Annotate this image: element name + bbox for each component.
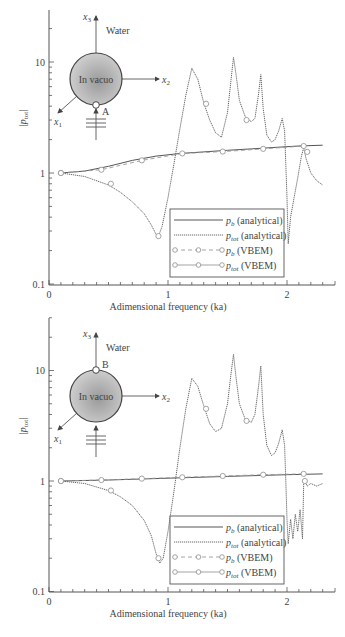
pb-vbem-marker xyxy=(180,475,185,480)
x2-label: x2 xyxy=(161,74,170,87)
pb-vbem-marker xyxy=(180,151,185,156)
y-tick-label: 10 xyxy=(35,365,45,376)
ptot-vbem-marker xyxy=(305,149,310,154)
pb-vbem-marker xyxy=(139,476,144,481)
receiver-point-label: B xyxy=(102,359,109,370)
x-tick-label: 2 xyxy=(285,596,290,607)
legend-marker xyxy=(196,555,201,560)
x-tick-label: 0 xyxy=(47,289,52,300)
ptot-vbem-marker xyxy=(302,478,307,483)
legend-marker xyxy=(196,263,201,268)
inset-diagram: x3x2x1WaterIn vacuoA xyxy=(53,11,170,140)
in-vacuo-label: In vacuo xyxy=(79,74,114,85)
ptot-vbem-marker xyxy=(244,418,249,423)
legend-marker xyxy=(173,263,178,268)
legend-marker xyxy=(196,248,201,253)
receiver-point xyxy=(93,367,100,374)
pb-vbem-marker xyxy=(261,472,266,477)
ptot-vbem-marker xyxy=(156,556,161,561)
legend-marker xyxy=(220,263,225,268)
ptot-vbem-marker xyxy=(108,488,113,493)
receiver-point-label: A xyxy=(102,106,110,117)
ptot-vbem-marker xyxy=(108,181,113,186)
y-tick-label: 0.1 xyxy=(33,279,46,290)
ptot-vbem-marker xyxy=(58,478,63,483)
ptot-vbem-marker xyxy=(244,117,249,122)
legend-marker xyxy=(173,248,178,253)
y-tick-label: 10 xyxy=(35,57,45,68)
x1-label: x1 xyxy=(53,433,62,446)
pb-vbem-marker xyxy=(301,143,306,148)
y-tick-label: 0.1 xyxy=(33,586,46,597)
legend-marker xyxy=(173,570,178,575)
pb-vbem-marker xyxy=(220,473,225,478)
legend: pb (analytical)ptot (analytical)pb (VBEM… xyxy=(170,209,286,277)
y-tick-label: 1 xyxy=(40,168,45,179)
water-label: Water xyxy=(106,342,130,353)
x-axis-label: Adimensional frequency (ka) xyxy=(109,608,226,620)
in-vacuo-label: In vacuo xyxy=(79,391,114,402)
figure: 0.1110012Adimensional frequency (ka)|pto… xyxy=(0,0,345,637)
chart-panel-2: 0.1110012Adimensional frequency (ka)|pto… xyxy=(17,318,335,620)
pb-vbem-marker xyxy=(261,146,266,151)
pb-vbem-marker xyxy=(139,158,144,163)
legend-marker xyxy=(220,555,225,560)
y-axis-label: |ptot| xyxy=(17,418,30,434)
x-tick-label: 1 xyxy=(166,289,171,300)
pb-vbem-marker xyxy=(99,167,104,172)
water-label: Water xyxy=(106,25,130,36)
legend: pb (analytical)ptot (analytical)pb (VBEM… xyxy=(170,516,286,584)
legend-marker xyxy=(196,570,201,575)
x3-label: x3 xyxy=(82,11,91,24)
legend-marker xyxy=(220,248,225,253)
x-tick-label: 1 xyxy=(166,596,171,607)
pb-vbem-marker xyxy=(301,471,306,476)
x1-label: x1 xyxy=(53,116,62,129)
x-tick-label: 2 xyxy=(285,289,290,300)
ptot-vbem-marker xyxy=(203,406,208,411)
legend-marker xyxy=(220,570,225,575)
x3-label: x3 xyxy=(82,328,91,341)
y-axis-label: |ptot| xyxy=(17,110,30,126)
x-axis-label: Adimensional frequency (ka) xyxy=(109,301,226,313)
inset-diagram: x3x2x1WaterIn vacuoB xyxy=(53,328,170,457)
x2-label: x2 xyxy=(161,391,170,404)
chart-panel-1: 0.1110012Adimensional frequency (ka)|pto… xyxy=(17,10,335,313)
ptot-vbem-marker xyxy=(203,101,208,106)
pb-vbem-marker xyxy=(99,477,104,482)
pb-vbem-marker xyxy=(220,149,225,154)
receiver-point xyxy=(93,102,100,109)
x-tick-label: 0 xyxy=(47,596,52,607)
legend-marker xyxy=(173,555,178,560)
ptot-vbem-marker xyxy=(156,234,161,239)
ptot-vbem-marker xyxy=(58,170,63,175)
y-tick-label: 1 xyxy=(40,476,45,487)
